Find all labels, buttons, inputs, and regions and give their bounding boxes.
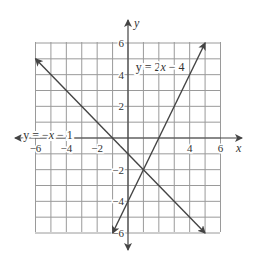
x-axis-label: x bbox=[235, 141, 242, 155]
x-tick-label: −6 bbox=[30, 142, 42, 154]
y-tick-label: 6 bbox=[119, 37, 125, 49]
label-line-1: y = −x − 1 bbox=[23, 128, 73, 142]
coordinate-plane: −6−4−246642−2−4−6 y = −x − 1 y = 2x − 4 … bbox=[0, 0, 253, 262]
y-axis-label: y bbox=[133, 16, 140, 30]
y-tick-label: −4 bbox=[112, 195, 124, 207]
x-tick-label: 4 bbox=[187, 142, 193, 154]
y-tick-label: −2 bbox=[112, 164, 124, 176]
eq-suffix: − 1 bbox=[54, 128, 73, 142]
x-tick-label: −4 bbox=[60, 142, 72, 154]
eq-prefix: y = 2 bbox=[136, 60, 161, 74]
y-tick-label: 4 bbox=[119, 69, 125, 81]
eq-suffix: − 4 bbox=[166, 60, 185, 74]
y-tick-label: 2 bbox=[119, 100, 125, 112]
label-line-2: y = 2x − 4 bbox=[136, 60, 185, 74]
x-tick-label: −2 bbox=[91, 142, 103, 154]
eq-prefix: y = − bbox=[23, 128, 49, 142]
x-tick-label: 6 bbox=[218, 142, 224, 154]
